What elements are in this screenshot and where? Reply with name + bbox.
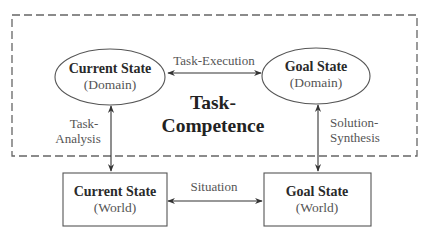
- label-task-analysis-line1: Task-: [70, 116, 99, 131]
- node-title: Current State: [74, 184, 157, 199]
- node-title: Goal State: [286, 184, 349, 199]
- node-subtitle: (World): [296, 200, 338, 215]
- label-situation: Situation: [191, 179, 238, 194]
- node-goal-state-world: Goal State (World): [264, 173, 371, 226]
- frame-label-line2: Competence: [162, 115, 265, 136]
- label-task-analysis-line2: Analysis: [55, 131, 101, 146]
- task-competence-diagram: Current State (Domain) Goal State (Domai…: [0, 0, 432, 236]
- node-title: Current State: [69, 61, 152, 76]
- node-current-state-domain: Current State (Domain): [55, 49, 165, 105]
- node-goal-state-domain: Goal State (Domain): [262, 48, 370, 104]
- node-subtitle: (Domain): [84, 77, 136, 92]
- node-title: Goal State: [285, 59, 348, 74]
- node-subtitle: (Domain): [290, 75, 342, 90]
- node-current-state-world: Current State (World): [63, 173, 167, 226]
- label-task-execution: Task-Execution: [173, 53, 255, 68]
- label-solution-synthesis-line2: Synthesis: [330, 130, 380, 145]
- label-solution-synthesis-line1: Solution-: [330, 115, 378, 130]
- node-subtitle: (World): [94, 200, 136, 215]
- frame-label-line1: Task-: [190, 92, 236, 113]
